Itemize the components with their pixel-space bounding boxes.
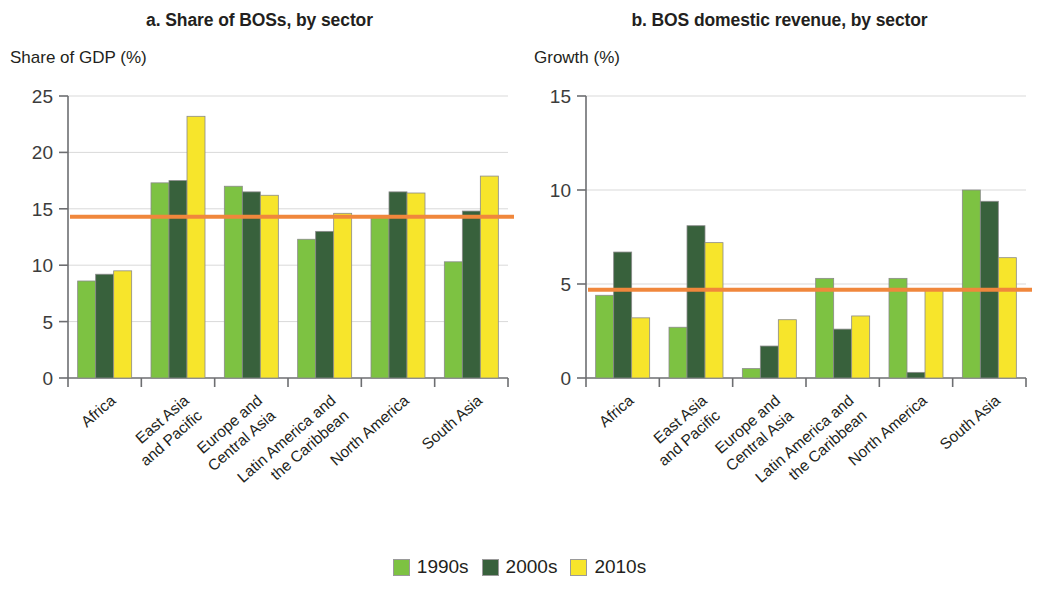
y-axis-tick-label: 5 — [560, 274, 571, 295]
bar[interactable] — [407, 193, 425, 378]
bar-group — [962, 190, 1016, 378]
bar[interactable] — [962, 190, 980, 378]
legend-swatch-icon — [570, 559, 587, 576]
bar[interactable] — [907, 372, 925, 378]
bar-group — [444, 176, 498, 378]
bar[interactable] — [614, 252, 632, 378]
bar-group — [596, 252, 650, 378]
x-axis-category-label: East Asiaand Pacific — [124, 391, 206, 469]
bar[interactable] — [632, 318, 650, 378]
bar[interactable] — [78, 281, 96, 378]
bar[interactable] — [998, 258, 1016, 378]
chart-panel-b: b. BOS domestic revenue, by sector Growt… — [520, 0, 1039, 540]
bar-group — [298, 213, 352, 378]
x-axis-category-label: Africa — [78, 391, 119, 430]
y-axis-tick-label: 0 — [560, 368, 571, 389]
y-axis-tick-label: 0 — [42, 368, 53, 389]
bar[interactable] — [480, 176, 498, 378]
bar[interactable] — [925, 290, 943, 378]
y-axis-tick-label: 10 — [32, 255, 53, 276]
bar[interactable] — [298, 239, 316, 378]
bar[interactable] — [96, 274, 114, 378]
y-axis-tick-label: 10 — [550, 180, 571, 201]
bar[interactable] — [760, 346, 778, 378]
bar-group — [742, 320, 796, 378]
legend-label: 1990s — [417, 556, 469, 578]
x-axis-category-label-line: Africa — [596, 391, 637, 430]
bar[interactable] — [687, 226, 705, 378]
legend-item[interactable]: 2010s — [570, 556, 646, 578]
bar[interactable] — [596, 295, 614, 378]
legend-item[interactable]: 2000s — [482, 556, 558, 578]
bar[interactable] — [260, 195, 278, 378]
legend-swatch-icon — [482, 559, 499, 576]
bar-group — [669, 226, 723, 378]
chart-legend: 1990s2000s2010s — [0, 556, 1039, 578]
y-axis-tick-label: 15 — [32, 199, 53, 220]
figure-container: a. Share of BOSs, by sector Share of GDP… — [0, 0, 1039, 600]
x-axis-category-label: South Asia — [418, 391, 485, 453]
bar-group — [151, 116, 205, 378]
bar[interactable] — [316, 231, 334, 378]
panel-a-plot: 0510152025AfricaEast Asiaand PacificEuro… — [0, 0, 519, 540]
bar[interactable] — [669, 327, 687, 378]
bar[interactable] — [187, 116, 205, 378]
legend-item[interactable]: 1990s — [393, 556, 469, 578]
bar[interactable] — [151, 183, 169, 378]
x-axis-category-label: East Asiaand Pacific — [642, 391, 724, 469]
bar[interactable] — [778, 320, 796, 378]
legend-swatch-icon — [393, 559, 410, 576]
y-axis-tick-label: 15 — [550, 86, 571, 107]
x-axis-category-label-line: South Asia — [418, 391, 485, 453]
bar[interactable] — [742, 369, 760, 378]
y-axis-tick-label: 5 — [42, 312, 53, 333]
bar[interactable] — [889, 278, 907, 378]
bar[interactable] — [389, 192, 407, 378]
x-axis-category-label: Africa — [596, 391, 637, 430]
legend-label: 2010s — [594, 556, 646, 578]
bar[interactable] — [852, 316, 870, 378]
chart-panel-a: a. Share of BOSs, by sector Share of GDP… — [0, 0, 519, 540]
bar[interactable] — [444, 262, 462, 378]
panel-b-plot: 051015AfricaEast Asiaand PacificEurope a… — [520, 0, 1039, 540]
bar[interactable] — [371, 217, 389, 378]
bar-group — [889, 278, 943, 378]
bar-group — [816, 278, 870, 378]
bar[interactable] — [816, 278, 834, 378]
y-axis-tick-label: 20 — [32, 142, 53, 163]
bar[interactable] — [705, 243, 723, 378]
bar-group — [78, 271, 132, 378]
bar[interactable] — [169, 181, 187, 378]
bar[interactable] — [834, 329, 852, 378]
bar[interactable] — [462, 211, 480, 378]
y-axis-tick-label: 25 — [32, 86, 53, 107]
bar-group — [371, 192, 425, 378]
x-axis-category-label-line: South Asia — [936, 391, 1003, 453]
legend-label: 2000s — [506, 556, 558, 578]
bar[interactable] — [114, 271, 132, 378]
x-axis-category-label-line: Africa — [78, 391, 119, 430]
x-axis-category-label: South Asia — [936, 391, 1003, 453]
bar[interactable] — [242, 192, 260, 378]
bar[interactable] — [334, 213, 352, 378]
